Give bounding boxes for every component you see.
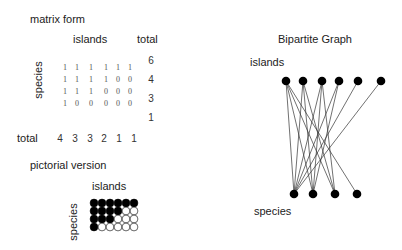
nestedness-diagram: matrix form islands total species 111111… xyxy=(0,0,402,250)
pictorial-circle-grid xyxy=(90,199,138,231)
graph-species-label: species xyxy=(254,205,292,217)
matrix-cell: 1 xyxy=(104,63,108,72)
filled-circle xyxy=(98,199,106,207)
island-node xyxy=(335,77,344,86)
pictorial-species-label: species xyxy=(67,203,79,241)
pictorial-title: pictorial version xyxy=(30,159,106,171)
matrix-cell: 1 xyxy=(63,75,67,84)
matrix-cell: 1 xyxy=(75,87,79,96)
matrix-total-label: total xyxy=(137,33,158,45)
empty-circle xyxy=(122,215,130,223)
matrix-cell: 0 xyxy=(89,99,93,108)
row-total: 4 xyxy=(148,74,154,85)
graph-edges xyxy=(286,81,381,194)
matrix-cell: 1 xyxy=(89,87,93,96)
matrix-cell: 0 xyxy=(104,99,108,108)
matrix-cell: 0 xyxy=(116,75,120,84)
species-node xyxy=(290,190,299,199)
matrix-form-title: matrix form xyxy=(30,13,85,25)
matrix-cell: 1 xyxy=(63,63,67,72)
matrix-cell: 1 xyxy=(75,63,79,72)
column-total: 2 xyxy=(101,133,107,144)
filled-circle xyxy=(114,207,122,215)
island-node xyxy=(354,77,363,86)
matrix-cell: 1 xyxy=(104,75,108,84)
bipartite-graph-title: Bipartite Graph xyxy=(278,33,352,45)
matrix-cell: 0 xyxy=(116,87,120,96)
filled-circle xyxy=(90,215,98,223)
empty-circle xyxy=(130,207,138,215)
matrix-cell: 0 xyxy=(128,75,132,84)
empty-circle xyxy=(98,223,106,231)
matrix-cell: 1 xyxy=(63,99,67,108)
filled-circle xyxy=(130,199,138,207)
row-total: 1 xyxy=(148,112,154,123)
empty-circle xyxy=(122,223,130,231)
bipartite-graph-section: Bipartite Graph islands species xyxy=(250,33,385,217)
column-total: 3 xyxy=(72,133,78,144)
column-total: 1 xyxy=(131,133,137,144)
graph-edge xyxy=(322,81,335,194)
empty-circle xyxy=(122,207,130,215)
island-node xyxy=(318,77,327,86)
column-total: 1 xyxy=(116,133,122,144)
row-totals: 6431 xyxy=(148,55,154,123)
graph-edge xyxy=(294,81,339,194)
filled-circle xyxy=(90,223,98,231)
column-total: 4 xyxy=(57,133,63,144)
matrix-form-section: matrix form islands total species 111111… xyxy=(17,13,158,144)
filled-circle xyxy=(106,215,114,223)
island-node xyxy=(282,77,291,86)
filled-circle xyxy=(122,199,130,207)
matrix-cell: 1 xyxy=(116,63,120,72)
graph-edge xyxy=(313,81,339,194)
empty-circle xyxy=(114,223,122,231)
column-total: 3 xyxy=(87,133,93,144)
filled-circle xyxy=(106,207,114,215)
filled-circle xyxy=(106,199,114,207)
matrix-cell: 0 xyxy=(128,99,132,108)
matrix-cell: 0 xyxy=(128,87,132,96)
empty-circle xyxy=(130,223,138,231)
filled-circle xyxy=(90,207,98,215)
graph-edge xyxy=(286,81,335,194)
matrix-cell: 1 xyxy=(128,63,132,72)
empty-circle xyxy=(130,215,138,223)
matrix-islands-label: islands xyxy=(73,33,108,45)
matrix-cell: 1 xyxy=(75,75,79,84)
filled-circle xyxy=(114,199,122,207)
row-total: 3 xyxy=(148,93,154,104)
matrix-cell: 0 xyxy=(75,99,79,108)
matrix-species-label: species xyxy=(32,61,44,99)
column-totals: 433211 xyxy=(57,133,137,144)
species-node xyxy=(331,190,340,199)
empty-circle xyxy=(106,223,114,231)
species-node xyxy=(353,190,362,199)
species-node xyxy=(309,190,318,199)
matrix-cell: 1 xyxy=(89,75,93,84)
matrix-cells: 111111111100111000100000 xyxy=(63,63,132,108)
column-total-label: total xyxy=(17,132,38,144)
island-node xyxy=(299,77,308,86)
graph-edge xyxy=(286,81,357,194)
graph-edge xyxy=(294,81,381,194)
filled-circle xyxy=(98,215,106,223)
matrix-cell: 1 xyxy=(89,63,93,72)
island-node xyxy=(377,77,386,86)
matrix-cell: 0 xyxy=(116,99,120,108)
matrix-cell: 0 xyxy=(104,87,108,96)
filled-circle xyxy=(98,207,106,215)
empty-circle xyxy=(114,215,122,223)
row-total: 6 xyxy=(148,55,154,66)
pictorial-section: pictorial version islands species xyxy=(30,159,138,241)
filled-circle xyxy=(90,199,98,207)
pictorial-islands-label: islands xyxy=(92,180,127,192)
matrix-cell: 1 xyxy=(63,87,67,96)
graph-islands-label: islands xyxy=(250,56,285,68)
